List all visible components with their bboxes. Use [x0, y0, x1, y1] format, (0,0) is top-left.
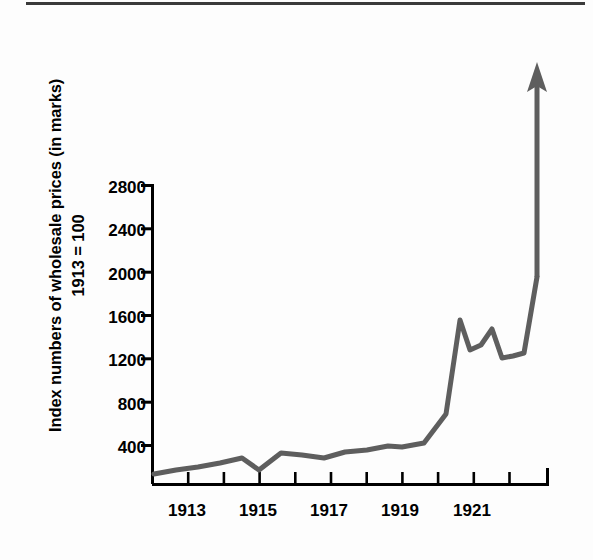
data-series-group — [154, 62, 547, 474]
x-axis-group — [152, 468, 549, 485]
plot-area — [0, 0, 593, 560]
y-axis-group — [141, 184, 153, 484]
chart-figure: Index numbers of wholesale prices (in ma… — [0, 0, 593, 560]
price-index-line — [154, 277, 537, 474]
